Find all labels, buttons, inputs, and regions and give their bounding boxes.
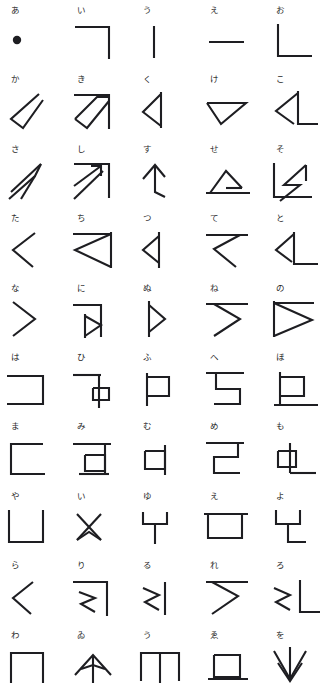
glyph-label: ゐ	[77, 631, 86, 640]
glyph-label: そ	[276, 145, 285, 154]
stroke-diagram-small-right-triangle-bar	[137, 294, 193, 340]
glyph-cell: る	[132, 555, 198, 624]
glyph-cell: か	[0, 69, 66, 138]
stroke-diagram-small-triangle-corner	[270, 225, 326, 271]
glyph-label: た	[11, 214, 20, 223]
glyph-label: り	[77, 561, 86, 570]
glyph-label: わ	[11, 631, 20, 640]
glyph-cell: へ	[199, 347, 265, 416]
glyph-cell: と	[265, 208, 331, 277]
glyph-cell: ひ	[66, 347, 132, 416]
glyph-label: ろ	[276, 561, 285, 570]
stroke-diagram-n-bracket	[5, 641, 61, 687]
glyph-cell: う	[132, 0, 198, 69]
stroke-diagram-double-leg-bracket	[137, 641, 193, 687]
glyph-cell: め	[199, 416, 265, 485]
glyph-label: う	[143, 631, 152, 640]
stroke-diagram-right-triangle-frame	[270, 294, 326, 340]
stroke-diagram-y-fork-foot	[270, 502, 326, 548]
glyph-cell: ほ	[265, 347, 331, 416]
glyph-cell: よ	[265, 486, 331, 555]
glyph-cell: ら	[0, 555, 66, 624]
stroke-diagram-chevron-small-left	[5, 572, 61, 618]
stroke-diagram-triangle-with-foot	[270, 86, 326, 132]
glyph-label: し	[77, 145, 86, 154]
stroke-diagram-bar-squiggle	[204, 572, 260, 618]
glyph-label: め	[210, 422, 219, 431]
stroke-diagram-box-on-base	[204, 641, 260, 687]
stroke-diagram-double-diagonal-hook	[5, 155, 61, 201]
glyph-cell: ゐ	[66, 625, 132, 694]
glyph-label: む	[143, 422, 152, 431]
glyph-label: ね	[210, 284, 219, 293]
glyph-cell: れ	[199, 555, 265, 624]
glyph-cell: に	[66, 278, 132, 347]
glyph-cell: わ	[0, 625, 66, 694]
glyph-label: ま	[11, 422, 20, 431]
stroke-diagram-zigzag-corner-frame	[270, 155, 326, 201]
glyph-label: き	[77, 75, 86, 84]
stroke-diagram-peak-arch	[71, 641, 127, 687]
glyph-label: に	[77, 284, 86, 293]
glyph-cell: こ	[265, 69, 331, 138]
glyph-grid: あいうえおかきくけこさしすせそたちつてとなにぬねのはひふへほまみむめもやいゆえよ…	[0, 0, 331, 694]
glyph-label: ゆ	[143, 492, 152, 501]
glyph-label: さ	[11, 145, 20, 154]
stroke-diagram-small-box-stem	[137, 433, 193, 479]
stroke-diagram-squiggle-corner-frame	[71, 572, 127, 618]
stroke-diagram-bar-z-hook	[204, 433, 260, 479]
glyph-label: お	[276, 6, 285, 15]
glyph-cell: て	[199, 208, 265, 277]
glyph-cell: く	[132, 69, 198, 138]
glyph-label: ぬ	[143, 284, 152, 293]
glyph-cell: け	[199, 69, 265, 138]
stroke-diagram-bar-s-hook	[204, 364, 260, 410]
stroke-diagram-down-arrow-fork	[270, 641, 326, 687]
glyph-label: こ	[276, 75, 285, 84]
glyph-label: ち	[77, 214, 86, 223]
glyph-label: す	[143, 145, 152, 154]
glyph-cell: ゆ	[132, 486, 198, 555]
stroke-diagram-bar-chevron-right	[204, 294, 260, 340]
stroke-diagram-diag-hook-slash	[5, 86, 61, 132]
glyph-label: い	[77, 6, 86, 15]
glyph-cell: し	[66, 139, 132, 208]
glyph-label: な	[11, 284, 20, 293]
stroke-diagram-open-box-top	[204, 502, 260, 548]
glyph-label: て	[210, 214, 219, 223]
stroke-diagram-y-fork	[137, 502, 193, 548]
glyph-cell: む	[132, 416, 198, 485]
stroke-diagram-bracket-left	[5, 433, 61, 479]
stroke-diagram-bar-chevron	[204, 225, 260, 271]
glyph-label: よ	[276, 492, 285, 501]
glyph-label: へ	[210, 353, 219, 362]
stroke-diagram-chevron-left	[5, 225, 61, 271]
glyph-cell: い	[66, 0, 132, 69]
glyph-label: み	[77, 422, 86, 431]
stroke-diagram-horizontal-bar	[204, 17, 260, 63]
stroke-diagram-squiggle-bar	[137, 572, 193, 618]
glyph-label: け	[210, 75, 219, 84]
glyph-cell: ゑ	[199, 625, 265, 694]
glyph-cell: せ	[199, 139, 265, 208]
glyph-cell: を	[265, 625, 331, 694]
glyph-cell: た	[0, 208, 66, 277]
glyph-cell: の	[265, 278, 331, 347]
stroke-diagram-box-left-stem	[137, 364, 193, 410]
glyph-label: う	[143, 6, 152, 15]
stroke-diagram-diag-arrow-frame	[71, 155, 127, 201]
stroke-diagram-u-bracket	[5, 502, 61, 548]
stroke-diagram-small-box-stem-foot	[270, 433, 326, 479]
stroke-diagram-corner-bottom-left	[270, 17, 326, 63]
stroke-diagram-bracket-right	[5, 364, 61, 410]
glyph-cell: ま	[0, 416, 66, 485]
glyph-cell: や	[0, 486, 66, 555]
glyph-cell: り	[66, 555, 132, 624]
glyph-label: を	[276, 631, 285, 640]
glyph-cell: さ	[0, 139, 66, 208]
glyph-cell: あ	[0, 0, 66, 69]
glyph-cell: ぬ	[132, 278, 198, 347]
glyph-label: つ	[143, 214, 152, 223]
glyph-cell: も	[265, 416, 331, 485]
glyph-label: も	[276, 422, 285, 431]
